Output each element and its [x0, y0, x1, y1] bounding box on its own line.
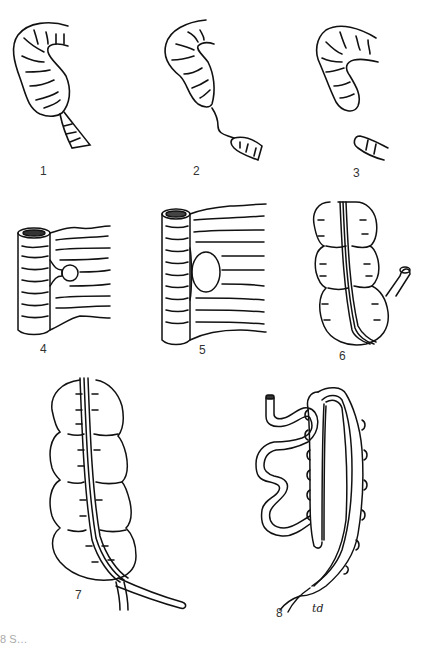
panel-8-label: 8 — [276, 606, 283, 620]
colon-thin-connection-illustration — [140, 0, 290, 190]
colon-haustra-illustration — [20, 370, 220, 610]
panel-8: td 8 — [230, 380, 420, 620]
panel-3-label: 3 — [353, 166, 360, 180]
panel-2-label: 2 — [193, 164, 200, 178]
figure-caption-partial: 8 S… — [0, 633, 28, 645]
stomach-bowel-colon-illustration — [230, 380, 420, 620]
panel-7: 7 — [20, 370, 220, 610]
mesentery-large-defect-illustration — [140, 190, 290, 360]
panel-1-label: 1 — [40, 164, 47, 178]
panel-7-label: 7 — [75, 588, 82, 602]
panel-1: 1 — [0, 0, 140, 190]
panel-3: 3 — [280, 0, 429, 190]
panel-2: 2 — [140, 0, 290, 190]
handwritten-initials: td — [312, 602, 323, 615]
mesentery-small-defect-illustration — [0, 190, 140, 360]
panel-5-label: 5 — [199, 343, 206, 357]
panel-6-label: 6 — [339, 349, 346, 363]
colon-separation-illustration — [280, 0, 429, 190]
cecum-appendix-illustration — [290, 180, 429, 360]
panel-5: 5 — [140, 190, 290, 360]
panel-6: 6 — [290, 180, 429, 360]
colon-stricture-illustration — [0, 0, 140, 190]
panel-4-label: 4 — [40, 342, 47, 356]
panel-4: 4 — [0, 190, 140, 360]
